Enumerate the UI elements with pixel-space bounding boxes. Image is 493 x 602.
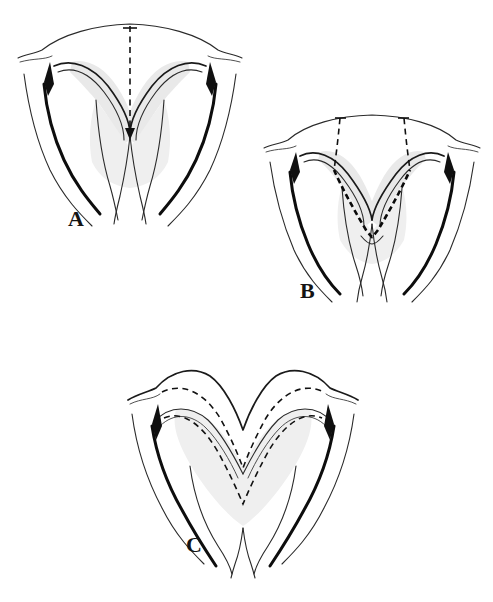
panel-b-shading [318, 151, 426, 264]
panel-b-superior-arch [264, 115, 480, 152]
figure-root: A [0, 0, 493, 602]
panel-b [248, 96, 493, 316]
panel-c-shading [175, 409, 312, 526]
panel-a [0, 0, 260, 250]
panel-c [98, 348, 388, 602]
panel-a-illustration [0, 0, 260, 250]
panel-label-c: C [186, 534, 202, 556]
panel-c-illustration [98, 348, 388, 602]
panel-b-lateral-wedges [290, 152, 454, 184]
panel-label-a: A [68, 208, 84, 230]
panel-label-b: B [300, 280, 315, 302]
panel-c-superior-arch [128, 371, 358, 430]
panel-b-illustration [248, 96, 493, 316]
